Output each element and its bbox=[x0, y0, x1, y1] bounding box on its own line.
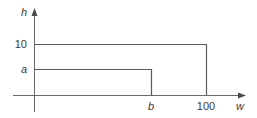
diagram-canvas: h 10 a b 100 w bbox=[0, 0, 257, 118]
y-axis-arrow-icon bbox=[32, 8, 38, 16]
x-tick-label-100: 100 bbox=[197, 100, 215, 112]
x-axis-arrow-icon bbox=[238, 93, 246, 99]
inner-rectangle bbox=[35, 70, 152, 96]
y-axis-label: h bbox=[21, 6, 27, 18]
y-tick-label-a: a bbox=[21, 63, 27, 75]
y-tick-label-10: 10 bbox=[15, 38, 27, 50]
x-axis bbox=[13, 93, 246, 99]
x-tick-label-b: b bbox=[148, 100, 154, 112]
y-axis bbox=[32, 8, 38, 112]
x-axis-label: w bbox=[236, 100, 245, 112]
